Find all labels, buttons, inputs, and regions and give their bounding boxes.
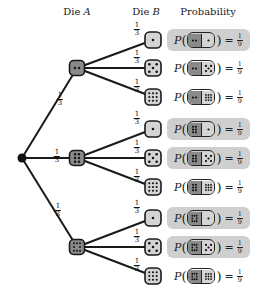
fraction-denominator: 3: [54, 157, 60, 164]
probability-symbol: P: [174, 91, 181, 104]
branch-prob-die-a-2: 13: [54, 149, 60, 164]
mini-die-a-face-2: [188, 91, 201, 104]
mini-die-a-face-6: [188, 181, 201, 194]
paren-open: (: [181, 269, 186, 284]
probability-symbol: P: [174, 270, 181, 283]
fraction-denominator: 3: [134, 119, 140, 126]
die-b-node-face-5: [145, 150, 161, 166]
die-b-node-face-9: [145, 268, 161, 284]
die-b-node-face-1: [145, 32, 161, 48]
probability-fraction: 19: [237, 151, 243, 165]
probability-symbol: P: [174, 123, 181, 136]
mini-die-b-face-5: [201, 62, 214, 75]
probability-symbol: P: [174, 62, 181, 75]
dice-pair: [187, 32, 215, 48]
probability-tree-diagram: Die A Die B Probability 1313131313131313…: [0, 0, 264, 303]
branch-prob-die-b-6: 13: [134, 169, 140, 184]
mini-die-a-face-8: [188, 241, 201, 254]
probability-fraction: 19: [237, 180, 243, 194]
fraction-denominator: 3: [134, 58, 140, 65]
outcome-probability: P()=19: [167, 57, 250, 79]
mini-die-b-face-1: [201, 212, 214, 225]
mini-die-b-face-1: [201, 123, 214, 136]
mini-die-b-face-5: [201, 152, 214, 165]
edge-die-a-to-die-b: [77, 218, 153, 247]
probability-symbol: P: [174, 34, 181, 47]
fraction-denominator: 9: [237, 277, 243, 284]
equals-sign: =: [225, 270, 234, 283]
edge-die-a-to-die-b: [77, 40, 153, 68]
paren-close: ): [216, 33, 221, 48]
die-a-node-face-6: [70, 151, 85, 166]
dice-pair: [187, 268, 215, 284]
branch-prob-die-b-7: 13: [134, 200, 140, 215]
paren-close: ): [216, 151, 221, 166]
fraction-denominator: 3: [134, 266, 140, 273]
mini-die-b-face-5: [201, 241, 214, 254]
equals-sign: =: [225, 62, 234, 75]
mini-die-a-face-8: [188, 270, 201, 283]
edge-die-a-to-die-b: [77, 247, 153, 276]
fraction-denominator: 3: [134, 177, 140, 184]
paren-close: ): [216, 240, 221, 255]
dice-pair: [187, 210, 215, 226]
probability-fraction: 19: [237, 240, 243, 254]
paren-open: (: [181, 122, 186, 137]
paren-open: (: [181, 61, 186, 76]
edge-root-to-die-a: [22, 68, 77, 158]
paren-open: (: [181, 33, 186, 48]
fraction-denominator: 9: [237, 41, 243, 48]
paren-close: ): [216, 90, 221, 105]
outcome-probability: P()=19: [167, 176, 250, 198]
outcome-probability: P()=19: [167, 265, 250, 287]
equals-sign: =: [225, 241, 234, 254]
fraction-denominator: 3: [134, 87, 140, 94]
fraction-denominator: 9: [237, 248, 243, 255]
paren-open: (: [181, 240, 186, 255]
paren-close: ): [216, 269, 221, 284]
fraction-denominator: 9: [237, 69, 243, 76]
edge-root-to-die-a: [22, 158, 77, 247]
equals-sign: =: [225, 181, 234, 194]
equals-sign: =: [225, 91, 234, 104]
die-a-node-face-2: [70, 61, 85, 76]
equals-sign: =: [225, 152, 234, 165]
probability-symbol: P: [174, 181, 181, 194]
die-b-node-face-5: [145, 60, 161, 76]
probability-fraction: 19: [237, 122, 243, 136]
probability-fraction: 19: [237, 211, 243, 225]
mini-die-b-face-9: [201, 270, 214, 283]
fraction-denominator: 9: [237, 188, 243, 195]
fraction-denominator: 3: [57, 100, 63, 107]
branch-prob-die-b-3: 13: [134, 79, 140, 94]
fraction-denominator: 3: [134, 30, 140, 37]
outcome-probability: P()=19: [167, 207, 250, 229]
mini-die-b-face-1: [201, 34, 214, 47]
probability-symbol: P: [174, 152, 181, 165]
dice-pair: [187, 179, 215, 195]
die-b-node-face-5: [145, 239, 161, 255]
probability-fraction: 19: [237, 90, 243, 104]
die-a-node-face-8: [70, 240, 85, 255]
edge-die-a-to-die-b: [77, 129, 153, 158]
mini-die-b-face-9: [201, 181, 214, 194]
branch-prob-die-a-3: 13: [55, 203, 61, 218]
dice-pair: [187, 89, 215, 105]
branch-prob-die-b-8: 13: [134, 229, 140, 244]
branch-prob-die-b-5: 13: [134, 140, 140, 155]
fraction-denominator: 3: [55, 211, 61, 218]
outcome-probability: P()=19: [167, 236, 250, 258]
fraction-denominator: 3: [134, 208, 140, 215]
fraction-denominator: 3: [134, 148, 140, 155]
paren-open: (: [181, 180, 186, 195]
dice-pair: [187, 121, 215, 137]
paren-close: ): [216, 122, 221, 137]
branch-prob-die-b-9: 13: [134, 258, 140, 273]
edge-die-a-to-die-b: [77, 158, 153, 187]
dice-pair: [187, 60, 215, 76]
mini-die-a-face-2: [188, 34, 201, 47]
dice-pair: [187, 239, 215, 255]
probability-fraction: 19: [237, 33, 243, 47]
paren-open: (: [181, 151, 186, 166]
die-b-node-face-1: [145, 121, 161, 137]
